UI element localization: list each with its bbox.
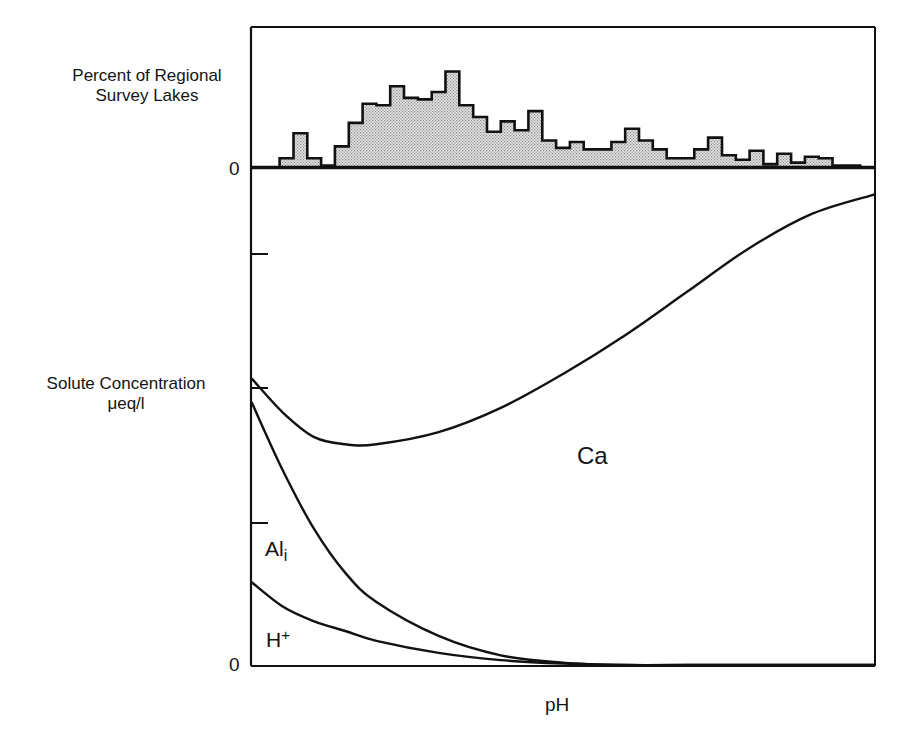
h-superscript: + [281, 626, 290, 643]
y-axis-label-line1: Solute Concentration [20, 374, 232, 394]
curve-ali [252, 403, 874, 665]
histogram-bars [252, 72, 874, 168]
chart-frame [251, 27, 875, 666]
series-label-ca: Ca [577, 442, 608, 470]
concentration-y-axis-label: Solute Concentration μeq/l [20, 374, 232, 414]
histogram-y-axis-label: Percent of Regional Survey Lakes [62, 66, 232, 106]
histogram-zero-tick-label: 0 [229, 158, 240, 180]
h-text: H [266, 628, 281, 651]
y-axis-label-units: μeq/l [20, 394, 232, 414]
solute-curves [252, 195, 874, 666]
series-label-h-plus: H+ [266, 626, 290, 652]
curve-ca [252, 195, 874, 446]
histogram [252, 72, 874, 168]
curve-h [252, 583, 874, 666]
al-text: Al [265, 537, 284, 560]
concentration-zero-tick-label: 0 [229, 654, 240, 676]
x-axis-label: pH [545, 694, 569, 716]
series-label-al: Ali [265, 537, 287, 565]
al-subscript: i [284, 547, 288, 564]
